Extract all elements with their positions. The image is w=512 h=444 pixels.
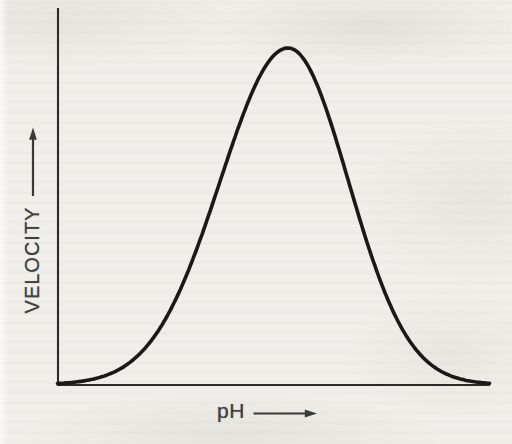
- y-axis-label: VELOCITY: [21, 207, 44, 314]
- velocity-curve: [58, 48, 490, 384]
- x-axis-label: pH: [217, 399, 245, 423]
- x-axis-arrow-icon: [254, 410, 318, 418]
- scanned-page: VELOCITY pH: [0, 0, 512, 444]
- y-axis-arrow-icon: [29, 128, 37, 197]
- chart-canvas: [0, 0, 512, 444]
